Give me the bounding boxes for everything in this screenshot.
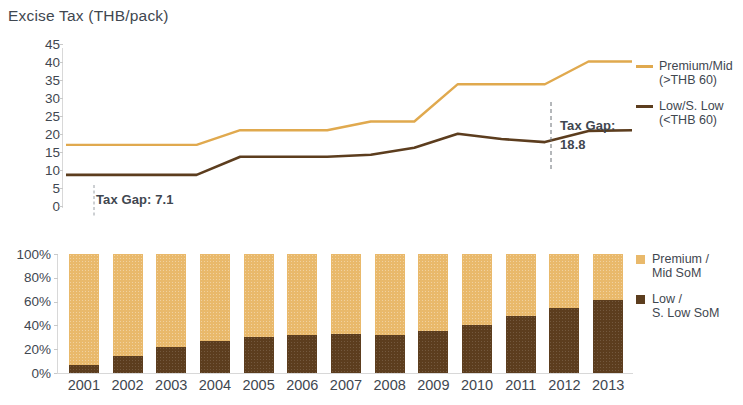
x-axis-label: 2004 xyxy=(193,377,237,393)
legend-box-swatch-premium-mid-som xyxy=(636,255,645,264)
line-chart: 454035302520151050 Tax Gap: 7.1 Tax Gap:… xyxy=(0,40,743,225)
bar-column[interactable] xyxy=(506,254,536,373)
bar-column[interactable] xyxy=(549,254,579,373)
line-chart-legend: Premium/Mid (>THB 60) Low/S. Low (<THB 6… xyxy=(636,60,733,140)
bar-segment-premium-mid-som xyxy=(593,254,623,300)
bar-column[interactable] xyxy=(593,254,623,373)
line-series-premium-mid xyxy=(66,62,632,145)
x-axis-label: 2005 xyxy=(237,377,281,393)
bar-segment-low-s-low-som xyxy=(506,316,536,373)
legend-item-low-s-low-som: Low / S. Low SoM xyxy=(636,293,719,320)
bar-segment-premium-mid-som xyxy=(156,254,186,347)
bar-segment-premium-mid-som xyxy=(287,254,317,335)
bar-segment-premium-mid-som xyxy=(418,254,448,331)
bar-segment-low-s-low-som xyxy=(113,356,143,373)
tax-gap-right-label-line2: 18.8 xyxy=(560,137,586,152)
legend-label-low-s-low-som: Low / S. Low SoM xyxy=(652,293,719,320)
stacked-bar-legend: Premium / Mid SoM Low / S. Low SoM xyxy=(636,253,719,333)
bar-y-tick: 80% xyxy=(24,271,51,285)
legend-box-swatch-low-s-low-som xyxy=(636,295,645,304)
chart-page: Excise Tax (THB/pack) 454035302520151050… xyxy=(0,0,743,405)
bar-column[interactable] xyxy=(200,254,230,373)
bar-y-tick-mark xyxy=(54,302,58,303)
bar-y-tick-mark xyxy=(54,349,58,350)
x-axis-label: 2008 xyxy=(368,377,412,393)
bar-y-tick: 20% xyxy=(24,343,51,357)
bar-segment-low-s-low-som xyxy=(549,308,579,373)
bar-segment-low-s-low-som xyxy=(375,335,405,373)
bar-column[interactable] xyxy=(244,254,274,373)
bar-y-tick-mark xyxy=(54,325,58,326)
bar-segment-low-s-low-som xyxy=(244,337,274,373)
bar-segment-premium-mid-som xyxy=(331,254,361,334)
bar-column[interactable] xyxy=(462,254,492,373)
legend-item-low-s-low: Low/S. Low (<THB 60) xyxy=(636,100,733,127)
bar-y-tick: 100% xyxy=(16,248,51,262)
stacked-bar-chart: 100%80%60%40%20%0% 200120022003200420052… xyxy=(0,246,743,405)
bar-segment-low-s-low-som xyxy=(156,347,186,373)
x-axis-label: 2006 xyxy=(280,377,324,393)
bar-segment-low-s-low-som xyxy=(418,331,448,373)
legend-line-swatch-low-s-low xyxy=(636,105,653,108)
bar-chart-y-axis: 100%80%60%40%20%0% xyxy=(5,246,51,371)
bar-segment-low-s-low-som xyxy=(287,335,317,373)
tax-gap-left-label: Tax Gap: 7.1 xyxy=(96,192,174,207)
bar-chart-plot xyxy=(62,254,630,373)
bar-segment-low-s-low-som xyxy=(200,341,230,373)
bar-segment-premium-mid-som xyxy=(549,254,579,308)
bar-chart-baseline xyxy=(57,373,633,374)
legend-item-premium-mid-som: Premium / Mid SoM xyxy=(636,253,719,280)
bar-segment-low-s-low-som xyxy=(69,365,99,373)
bar-y-tick: 0% xyxy=(31,367,51,381)
bar-column[interactable] xyxy=(287,254,317,373)
legend-line-swatch-premium-mid xyxy=(636,65,653,68)
line-series-low-s-low xyxy=(66,130,632,175)
bar-column[interactable] xyxy=(418,254,448,373)
bar-segment-premium-mid-som xyxy=(69,254,99,365)
bar-column[interactable] xyxy=(156,254,186,373)
tax-gap-right-label-line1: Tax Gap: xyxy=(560,118,615,133)
bar-y-tick: 60% xyxy=(24,295,51,309)
x-axis-label: 2002 xyxy=(106,377,150,393)
x-axis-label: 2012 xyxy=(542,377,586,393)
bar-column[interactable] xyxy=(113,254,143,373)
x-axis-label: 2001 xyxy=(62,377,106,393)
page-title: Excise Tax (THB/pack) xyxy=(8,7,169,25)
bar-segment-premium-mid-som xyxy=(244,254,274,337)
legend-label-premium-mid-som: Premium / Mid SoM xyxy=(652,253,709,280)
bar-segment-low-s-low-som xyxy=(331,334,361,373)
x-axis-label: 2013 xyxy=(586,377,630,393)
bar-column[interactable] xyxy=(331,254,361,373)
bar-chart-axis-spine xyxy=(57,254,58,373)
bar-segment-premium-mid-som xyxy=(200,254,230,341)
bar-y-tick-mark xyxy=(54,278,58,279)
bar-segment-premium-mid-som xyxy=(113,254,143,356)
bar-y-tick-mark xyxy=(54,254,58,255)
x-axis-label: 2007 xyxy=(324,377,368,393)
bar-segment-low-s-low-som xyxy=(593,300,623,373)
legend-label-low-s-low: Low/S. Low (<THB 60) xyxy=(659,100,724,127)
x-axis-label: 2009 xyxy=(411,377,455,393)
x-axis-label: 2011 xyxy=(499,377,543,393)
bar-segment-premium-mid-som xyxy=(462,254,492,325)
bar-segment-premium-mid-som xyxy=(375,254,405,335)
bar-column[interactable] xyxy=(375,254,405,373)
x-axis-label: 2003 xyxy=(149,377,193,393)
legend-label-premium-mid: Premium/Mid (>THB 60) xyxy=(659,60,733,87)
bar-segment-low-s-low-som xyxy=(462,325,492,373)
bar-column[interactable] xyxy=(69,254,99,373)
x-axis-label: 2010 xyxy=(455,377,499,393)
bar-y-tick: 40% xyxy=(24,319,51,333)
bar-segment-premium-mid-som xyxy=(506,254,536,316)
legend-item-premium-mid: Premium/Mid (>THB 60) xyxy=(636,60,733,87)
bar-chart-x-axis: 2001200220032004200520062007200820092010… xyxy=(62,377,630,401)
